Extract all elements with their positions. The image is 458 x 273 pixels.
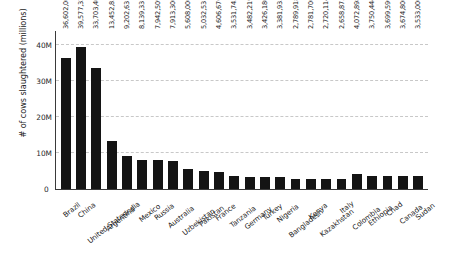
x-label-slot: Bangladesh (288, 192, 303, 270)
y-axis-title: # of cows slaughtered (millions) (18, 0, 28, 158)
bar[interactable] (367, 176, 377, 189)
bar-slot: 3,381,933 (273, 31, 288, 189)
x-label-slot: Italy (334, 192, 349, 270)
bar-series: 36,602,00039,577,32033,703,40013,452,831… (56, 31, 428, 189)
x-axis-category-labels: BrazilChinaUnited StatesArgentinaIndiaMe… (55, 192, 428, 270)
bar-value-label: 2,781,700 (307, 0, 315, 29)
bar[interactable] (291, 179, 301, 189)
bar[interactable] (321, 179, 331, 189)
bar-value-label: 2,789,918 (292, 0, 300, 29)
bar[interactable] (337, 179, 347, 189)
bar-value-label: 9,202,631 (123, 0, 131, 29)
bar-slot: 3,533,000 (411, 31, 426, 189)
bar-slot: 2,658,875 (334, 31, 349, 189)
x-label-slot: India (119, 192, 134, 270)
x-label-slot: Australia (165, 192, 180, 270)
bar-slot: 33,703,400 (89, 31, 104, 189)
bar-value-label: 13,452,831 (108, 0, 116, 29)
x-label-slot: United States (88, 192, 103, 270)
bar-slot: 3,699,596 (380, 31, 395, 189)
x-label-slot: Kenya (303, 192, 318, 270)
bar[interactable] (61, 58, 71, 189)
y-axis-tick-label: 10M (36, 149, 52, 158)
bar-slot: 2,720,114 (319, 31, 334, 189)
bar[interactable] (352, 174, 362, 189)
x-label-slot: Russia (149, 192, 164, 270)
bar[interactable] (214, 172, 224, 189)
bar-value-label: 2,658,875 (338, 0, 346, 29)
x-label-slot: Turkey (257, 192, 272, 270)
bar-value-label: 5,608,000 (184, 0, 192, 29)
x-label-slot: Chad (380, 192, 395, 270)
bar-slot: 39,577,320 (73, 31, 88, 189)
bar[interactable] (76, 47, 86, 189)
bar[interactable] (413, 176, 423, 189)
bar-chart: # of cows slaughtered (millions) 0 10M20… (0, 0, 458, 273)
bar-slot: 3,531,743 (227, 31, 242, 189)
bar-value-label: 3,381,933 (276, 0, 284, 29)
bar[interactable] (153, 160, 163, 189)
bar-value-label: 3,482,219 (246, 0, 254, 29)
bar-slot: 9,202,631 (119, 31, 134, 189)
y-axis-tick-label: 40M (36, 41, 52, 50)
bar-value-label: 7,942,509 (154, 0, 162, 29)
bar[interactable] (199, 171, 209, 189)
bar-value-label: 5,032,531 (200, 0, 208, 29)
x-label-slot: France (211, 192, 226, 270)
bar-value-label: 33,703,400 (92, 0, 100, 29)
x-label-slot: Canada (395, 192, 410, 270)
bar-slot: 3,674,800 (395, 31, 410, 189)
bar-value-label: 7,913,300 (169, 0, 177, 29)
x-label-slot: Tanzania (226, 192, 241, 270)
bar-value-label: 4,072,898 (353, 0, 361, 29)
bar[interactable] (260, 177, 270, 189)
bar-value-label: 4,606,676 (215, 0, 223, 29)
bar-slot: 4,072,898 (349, 31, 364, 189)
x-label-slot: Sudan (411, 192, 426, 270)
x-label-slot: Nigeria (272, 192, 287, 270)
bar-slot: 36,602,000 (58, 31, 73, 189)
bar-slot: 5,608,000 (181, 31, 196, 189)
bar-value-label: 8,139,331 (138, 0, 146, 29)
bar[interactable] (91, 68, 101, 189)
bar[interactable] (137, 160, 147, 189)
x-axis-tick-label: Sudan (414, 201, 437, 222)
bar-value-label: 39,577,320 (77, 0, 85, 29)
bar-slot: 2,789,918 (288, 31, 303, 189)
bar[interactable] (183, 169, 193, 189)
bar[interactable] (229, 176, 239, 189)
x-label-slot: Mexico (134, 192, 149, 270)
bar[interactable] (398, 176, 408, 189)
y-axis-tick-label: 30M (36, 77, 52, 86)
x-label-slot: Germany (242, 192, 257, 270)
bar-value-label: 3,531,743 (230, 0, 238, 29)
bar[interactable] (275, 177, 285, 189)
bar-slot: 3,750,444 (365, 31, 380, 189)
bar-slot: 2,781,700 (303, 31, 318, 189)
y-axis-origin-label: 0 (44, 185, 49, 194)
bar-slot: 7,913,300 (165, 31, 180, 189)
plot-area: 10M20M30M40M 36,602,00039,577,32033,703,… (55, 31, 428, 190)
bar[interactable] (122, 156, 132, 189)
bar-value-label: 3,750,444 (368, 0, 376, 29)
bar[interactable] (383, 176, 393, 189)
bar[interactable] (168, 161, 178, 189)
x-label-slot: Brazil (57, 192, 72, 270)
bar-value-label: 3,674,800 (399, 0, 407, 29)
bar-slot: 5,032,531 (196, 31, 211, 189)
x-label-slot: Ethiopia (365, 192, 380, 270)
x-label-slot: Colombia (349, 192, 364, 270)
bar[interactable] (107, 141, 117, 189)
bar[interactable] (245, 177, 255, 190)
bar-slot: 13,452,831 (104, 31, 119, 189)
bar-value-label: 2,720,114 (322, 0, 330, 29)
bar-slot: 3,482,219 (242, 31, 257, 189)
bar-value-label: 3,699,596 (384, 0, 392, 29)
bar-slot: 4,606,676 (211, 31, 226, 189)
x-label-slot: Kazakhstan (318, 192, 333, 270)
bar[interactable] (306, 179, 316, 189)
bar-slot: 3,426,180 (257, 31, 272, 189)
bar-value-label: 3,533,000 (414, 0, 422, 29)
x-label-slot: Pakistan (195, 192, 210, 270)
bar-slot: 8,139,331 (135, 31, 150, 189)
